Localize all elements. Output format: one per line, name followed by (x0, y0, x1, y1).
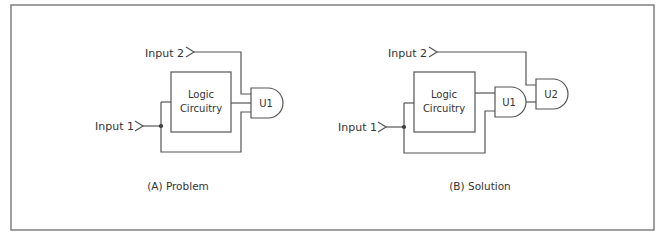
input-1-label: Input 1 (95, 120, 134, 133)
figure-frame (11, 5, 654, 230)
input-2-wire (437, 52, 536, 85)
logic-circuitry-block (171, 72, 231, 132)
gate-u2-label: U2 (544, 89, 558, 100)
input-2-label: Input 2 (388, 47, 427, 60)
input-2-label: Input 2 (145, 47, 184, 60)
logic-circuitry-block (414, 72, 475, 132)
panel-a-problem: Input 2 Logic Circuitry Input 1 U1 (A) P… (95, 47, 283, 192)
logic-label-line2: Circuitry (180, 103, 222, 114)
input-2-connector-icon (186, 47, 194, 57)
diagram-canvas: Input 2 Logic Circuitry Input 1 U1 (A) P… (0, 0, 663, 241)
input-2-connector-icon (429, 47, 437, 57)
caption-b: (B) Solution (449, 180, 511, 192)
logic-label-line1: Logic (188, 89, 214, 100)
panel-b-solution: Input 2 Logic Circuitry Input 1 U1 U2 (B… (338, 47, 568, 192)
logic-label-line1: Logic (431, 89, 457, 100)
input-2-wire (194, 52, 251, 94)
caption-a: (A) Problem (147, 180, 209, 192)
gate-u1-label: U1 (502, 97, 516, 108)
input-1-connector-icon (378, 122, 386, 132)
input-1-connector-icon (135, 121, 143, 131)
input-1-label: Input 1 (338, 121, 377, 134)
logic-label-line2: Circuitry (423, 103, 465, 114)
gate-u1-label: U1 (259, 98, 273, 109)
